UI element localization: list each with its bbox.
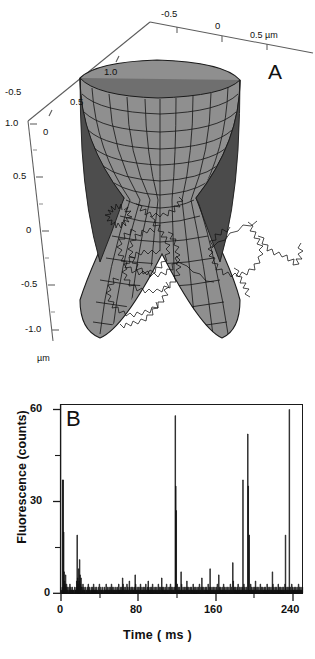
y-tick-label: 30 <box>30 494 42 506</box>
x-tick-label: 80 <box>130 603 142 615</box>
y-ticks <box>53 410 60 594</box>
y-tick-label: 60 <box>30 402 42 414</box>
x-tick-label: 160 <box>204 603 222 615</box>
x-tick-label: 240 <box>281 603 299 615</box>
y-axis-title: Fluorescence (counts) <box>15 382 29 572</box>
figure: 0 0.5 1.0 -0.5 0 0.5 µm -0.5 1.0 0.5 0 -… <box>0 0 315 659</box>
x-axis-title: Time ( ms ) <box>0 628 315 642</box>
trace-graphic <box>0 0 315 659</box>
fluorescence-trace <box>61 410 302 594</box>
y-tick-label: 0 <box>44 586 50 598</box>
panel-label-b: B <box>66 406 81 432</box>
x-tick-label: 0 <box>57 603 63 615</box>
